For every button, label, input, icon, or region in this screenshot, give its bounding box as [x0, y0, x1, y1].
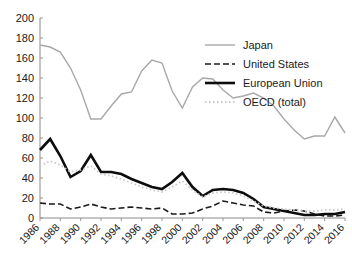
x-tick-label: 1986: [16, 221, 41, 246]
y-tick-label: 40: [22, 172, 34, 184]
x-tick-label: 1996: [118, 221, 143, 246]
x-tick-label: 2000: [159, 221, 184, 246]
x-tick-label: 2016: [321, 221, 346, 246]
x-tick-label: 2002: [179, 221, 204, 246]
x-tick-label: 1994: [98, 221, 123, 246]
y-tick-label: 80: [22, 132, 34, 144]
x-tick-label: 2010: [260, 221, 285, 246]
plot-series: [40, 45, 345, 216]
x-tick-label: 2008: [240, 221, 265, 246]
legend-label: European Union: [243, 77, 323, 89]
series-line-european-union: [40, 139, 345, 215]
y-tick-label: 200: [16, 12, 34, 24]
x-axis-tick-labels: 1986198819901992199419961998200020022004…: [16, 221, 346, 246]
y-tick-label: 20: [22, 192, 34, 204]
x-tick-label: 2014: [301, 221, 326, 246]
legend-label: OECD (total): [243, 96, 306, 108]
y-axis-tick-labels: 020406080100120140160180200: [16, 12, 34, 224]
x-tick-label: 1990: [57, 221, 82, 246]
legend-label: United States: [243, 58, 310, 70]
chart-container: 020406080100120140160180200 198619881990…: [0, 0, 352, 270]
x-tick-label: 2004: [199, 221, 224, 246]
legend-label: Japan: [243, 39, 273, 51]
y-tick-label: 160: [16, 52, 34, 64]
y-tick-label: 140: [16, 72, 34, 84]
y-tick-label: 180: [16, 32, 34, 44]
line-chart: 020406080100120140160180200 198619881990…: [0, 0, 352, 270]
y-tick-label: 120: [16, 92, 34, 104]
x-tick-label: 2006: [220, 221, 245, 246]
x-tick-label: 2012: [281, 221, 306, 246]
x-tick-label: 1992: [77, 221, 102, 246]
chart-legend: JapanUnited StatesEuropean UnionOECD (to…: [205, 39, 323, 108]
x-tick-label: 1998: [138, 221, 163, 246]
y-tick-label: 60: [22, 152, 34, 164]
y-tick-label: 100: [16, 112, 34, 124]
x-tick-label: 1988: [37, 221, 62, 246]
